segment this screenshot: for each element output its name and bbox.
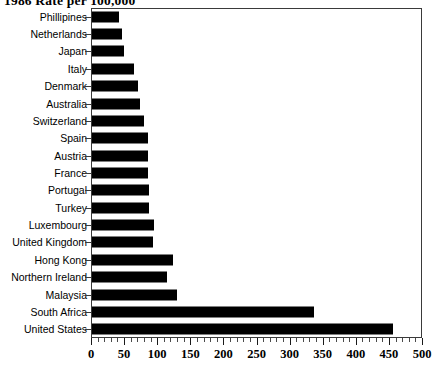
- category-label: Australia: [46, 98, 87, 109]
- bar-row: South Africa: [0, 303, 436, 320]
- x-axis-minor-tick: [270, 338, 271, 342]
- x-axis-major-tick: [257, 338, 258, 345]
- category-label: Netherlands: [30, 29, 87, 40]
- bar: [92, 63, 134, 74]
- x-axis-minor-tick: [396, 338, 397, 342]
- x-axis-minor-tick: [415, 338, 416, 342]
- bar: [92, 202, 149, 213]
- category-label: Phillipines: [40, 11, 87, 22]
- category-label: Malaysia: [46, 289, 87, 300]
- x-axis-minor-tick: [137, 338, 138, 342]
- x-axis-minor-tick: [336, 338, 337, 342]
- y-axis-tick: [85, 121, 91, 122]
- bar-row: Netherlands: [0, 25, 436, 42]
- x-axis-minor-tick: [382, 338, 383, 342]
- x-axis-major-tick: [290, 338, 291, 345]
- x-axis-major-tick: [223, 338, 224, 345]
- x-axis-minor-tick: [303, 338, 304, 342]
- bar-row: Denmark: [0, 77, 436, 94]
- x-axis-minor-tick: [197, 338, 198, 342]
- x-axis-minor-tick: [309, 338, 310, 342]
- x-axis-minor-tick: [98, 338, 99, 342]
- x-axis-minor-tick: [111, 338, 112, 342]
- x-axis-tick-label: 400: [346, 347, 365, 362]
- category-label: Switzerland: [33, 116, 87, 127]
- y-axis-tick: [85, 34, 91, 35]
- y-axis-tick: [85, 138, 91, 139]
- x-axis-tick-label: 100: [148, 347, 167, 362]
- x-axis-minor-tick: [151, 338, 152, 342]
- x-axis-minor-tick: [263, 338, 264, 342]
- y-axis-tick: [85, 173, 91, 174]
- y-axis-tick: [85, 51, 91, 52]
- x-axis-minor-tick: [283, 338, 284, 342]
- category-label: Northern Ireland: [11, 272, 87, 283]
- x-axis-minor-tick: [184, 338, 185, 342]
- y-axis-tick: [85, 295, 91, 296]
- x-axis-tick-label: 300: [280, 347, 299, 362]
- category-label: Portugal: [48, 185, 87, 196]
- x-axis-minor-tick: [296, 338, 297, 342]
- bar: [92, 29, 122, 40]
- x-axis-minor-tick: [369, 338, 370, 342]
- y-axis-tick: [85, 208, 91, 209]
- category-label: Japan: [58, 46, 87, 57]
- bar: [92, 167, 148, 178]
- y-axis-tick: [85, 104, 91, 105]
- category-label: Denmark: [44, 81, 87, 92]
- x-axis-minor-tick: [243, 338, 244, 342]
- x-axis-minor-tick: [144, 338, 145, 342]
- bar: [92, 11, 119, 22]
- bar-row: France: [0, 164, 436, 181]
- bar-row: United States: [0, 321, 436, 338]
- bar-row: Hong Kong: [0, 251, 436, 268]
- x-axis-minor-tick: [237, 338, 238, 342]
- x-axis-minor-tick: [343, 338, 344, 342]
- x-axis-minor-tick: [177, 338, 178, 342]
- category-label: France: [54, 168, 87, 179]
- x-axis-major-tick: [389, 338, 390, 345]
- bar-row: Austria: [0, 147, 436, 164]
- bar: [92, 289, 177, 300]
- bar-row: Italy: [0, 60, 436, 77]
- bar: [92, 115, 144, 126]
- x-axis-tick-label: 200: [214, 347, 233, 362]
- category-label: Spain: [60, 133, 87, 144]
- y-axis-tick: [85, 312, 91, 313]
- y-axis-tick: [85, 17, 91, 18]
- x-axis-major-tick: [157, 338, 158, 345]
- bar: [92, 133, 148, 144]
- bar: [92, 324, 393, 335]
- y-axis-tick: [85, 277, 91, 278]
- bar-row: United Kingdom: [0, 234, 436, 251]
- x-axis-tick-label: 0: [88, 347, 94, 362]
- bar: [92, 150, 148, 161]
- x-axis-tick-label: 250: [247, 347, 266, 362]
- bar-row: Switzerland: [0, 112, 436, 129]
- x-axis-minor-tick: [204, 338, 205, 342]
- x-axis-tick-label: 150: [181, 347, 200, 362]
- x-axis-minor-tick: [349, 338, 350, 342]
- x-axis-minor-tick: [276, 338, 277, 342]
- x-axis-tick-label: 50: [118, 347, 131, 362]
- bar: [92, 220, 154, 231]
- bar-row: Japan: [0, 43, 436, 60]
- x-axis-minor-tick: [210, 338, 211, 342]
- x-axis-major-tick: [356, 338, 357, 345]
- bar-row: Portugal: [0, 182, 436, 199]
- bar-row: Australia: [0, 95, 436, 112]
- category-label: Turkey: [55, 202, 87, 213]
- y-axis-tick: [85, 190, 91, 191]
- x-axis-minor-tick: [402, 338, 403, 342]
- y-axis-tick: [85, 69, 91, 70]
- category-label: South Africa: [30, 307, 87, 318]
- x-axis-minor-tick: [409, 338, 410, 342]
- category-label: Luxembourg: [29, 220, 87, 231]
- x-axis-minor-tick: [104, 338, 105, 342]
- y-axis-tick: [85, 156, 91, 157]
- bar-row: Luxembourg: [0, 216, 436, 233]
- x-axis-minor-tick: [316, 338, 317, 342]
- bar-chart: 1986 Rate per 100,000 PhillipinesNetherl…: [0, 0, 436, 374]
- category-label: Austria: [54, 150, 87, 161]
- bar: [92, 46, 124, 57]
